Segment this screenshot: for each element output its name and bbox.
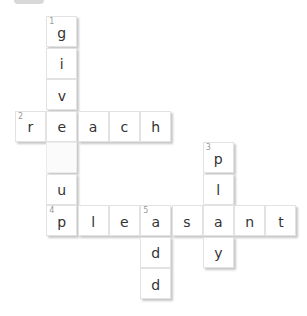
- cell-letter: c: [121, 120, 129, 134]
- crossword-cell[interactable]: e: [109, 205, 140, 236]
- clue-number: 3: [206, 144, 211, 152]
- crossword-cell[interactable]: a: [203, 205, 234, 236]
- cell-letter: a: [151, 215, 160, 229]
- cell-letter: t: [278, 215, 284, 229]
- crossword-cell[interactable]: e: [46, 111, 77, 142]
- crossword-cell[interactable]: y: [203, 237, 234, 268]
- crossword-cell[interactable]: n: [234, 205, 265, 236]
- cell-letter: h: [151, 120, 160, 134]
- cell-letter: i: [60, 57, 64, 71]
- cell-letter: e: [120, 215, 129, 229]
- cell-letter: p: [214, 152, 223, 166]
- crossword-grid: 1giv2reach3pul4ple5asantdyd: [0, 0, 307, 316]
- crossword-cell[interactable]: 3p: [203, 142, 234, 173]
- crossword-cell[interactable]: v: [46, 79, 77, 110]
- crossword-cell[interactable]: d: [140, 268, 171, 299]
- crossword-cell[interactable]: i: [46, 48, 77, 79]
- crossword-cell[interactable]: d: [140, 237, 171, 268]
- crossword-cell[interactable]: l: [78, 205, 109, 236]
- clue-number: 5: [143, 207, 148, 215]
- crossword-cell[interactable]: t: [265, 205, 296, 236]
- cell-letter: y: [214, 246, 222, 260]
- crossword-cell[interactable]: c: [109, 111, 140, 142]
- crossword-cell[interactable]: u: [46, 174, 77, 205]
- crossword-cell[interactable]: 1g: [46, 16, 77, 47]
- crossword-cell[interactable]: s: [172, 205, 203, 236]
- cell-letter: s: [183, 215, 190, 229]
- clue-number: 1: [49, 18, 54, 26]
- cell-letter: l: [91, 215, 95, 229]
- cell-letter: a: [214, 215, 223, 229]
- crossword-cell[interactable]: 5a: [140, 205, 171, 236]
- cell-letter: n: [245, 215, 254, 229]
- clue-number: 2: [18, 113, 23, 121]
- cell-letter: l: [216, 183, 220, 197]
- cell-letter: g: [57, 26, 66, 40]
- crossword-cell[interactable]: 4p: [46, 205, 77, 236]
- cell-letter: a: [89, 120, 98, 134]
- cell-letter: e: [57, 120, 66, 134]
- clue-number: 4: [49, 207, 54, 215]
- cell-letter: d: [151, 246, 160, 260]
- cell-letter: d: [151, 278, 160, 292]
- crossword-cell[interactable]: h: [140, 111, 171, 142]
- cell-letter: v: [58, 89, 66, 103]
- crossword-cell[interactable]: 2r: [15, 111, 46, 142]
- cell-letter: u: [57, 183, 66, 197]
- crossword-cell-space[interactable]: [46, 142, 77, 173]
- cell-letter: p: [57, 215, 66, 229]
- cell-letter: r: [28, 120, 34, 134]
- crossword-cell[interactable]: a: [78, 111, 109, 142]
- crossword-cell[interactable]: l: [203, 174, 234, 205]
